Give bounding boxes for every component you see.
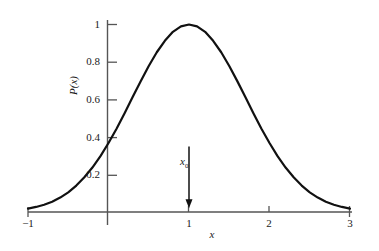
x-tick-label-2: 2: [255, 218, 283, 229]
y-axis-title: P(x): [68, 63, 79, 109]
x-axis-title: x: [198, 229, 226, 240]
x-tick-label-1: 1: [175, 218, 203, 229]
x0-label-subscript: 0: [185, 162, 189, 170]
plot-canvas: [0, 0, 379, 251]
y-tick-label-0-4: 0.4: [68, 132, 100, 143]
x-tick-label-3: 3: [336, 218, 364, 229]
y-tick-label-0-2: 0.2: [68, 169, 100, 180]
y-tick-label-1: 1: [72, 19, 100, 30]
x-tick-label--1: −1: [14, 218, 42, 229]
gaussian-distribution-figure: 1 0.8 0.6 0.4 0.2 −1 1 2 3 P(x) x x0: [0, 0, 379, 251]
arrow-head: [186, 199, 193, 208]
y-axis-ticks: [108, 25, 118, 176]
x0-annotation-label: x0: [180, 156, 188, 170]
